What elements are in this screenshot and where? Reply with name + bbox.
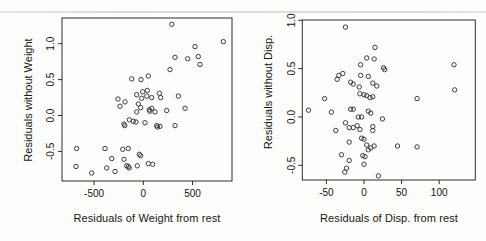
data-point: [221, 39, 225, 43]
data-point: [376, 174, 380, 178]
data-point: [135, 164, 139, 168]
x-tick-label: 0: [141, 188, 147, 199]
data-point: [151, 162, 155, 166]
plot-frame: [302, 20, 475, 180]
data-point: [139, 77, 143, 81]
data-point: [159, 95, 163, 99]
data-point: [415, 145, 419, 149]
data-point: [347, 158, 351, 162]
y-tick-label: 0.0: [286, 110, 297, 124]
data-point: [380, 117, 384, 121]
data-point: [196, 54, 200, 58]
data-point: [123, 100, 127, 104]
data-point: [116, 97, 120, 101]
data-point: [357, 85, 361, 89]
data-point: [329, 110, 333, 114]
y-axis-title-weight: Residuals without Weight: [22, 38, 34, 161]
data-point: [126, 146, 130, 150]
data-point: [306, 108, 310, 112]
data-point: [118, 104, 122, 108]
plot-frame: [62, 18, 232, 181]
plot-canvas-weight: -5000500-0.50.00.51.0: [0, 0, 243, 241]
x-tick-label: -50: [319, 187, 334, 198]
data-point: [150, 95, 154, 99]
data-point: [157, 91, 161, 95]
data-point: [113, 169, 117, 173]
data-point: [452, 63, 456, 67]
y-tick-label: 1.0: [46, 36, 57, 50]
data-point: [134, 120, 138, 124]
data-point: [453, 88, 457, 92]
x-axis-title-disp: Residuals of Disp. from rest: [302, 212, 476, 224]
data-point: [143, 121, 147, 125]
data-point: [168, 67, 172, 71]
data-point: [110, 156, 114, 160]
data-point: [373, 45, 377, 49]
data-point: [343, 121, 347, 125]
x-tick-label: 100: [431, 187, 448, 198]
data-point: [173, 55, 177, 59]
data-point: [74, 164, 78, 168]
data-point: [103, 146, 107, 150]
x-tick-label: -500: [84, 188, 104, 199]
data-point: [90, 171, 94, 175]
data-point: [130, 77, 134, 81]
data-point: [395, 144, 399, 148]
data-point: [75, 146, 79, 150]
y-tick-label: 0.5: [45, 72, 56, 86]
data-point: [358, 127, 362, 131]
x-tick-label: 0: [361, 187, 367, 198]
data-point: [375, 84, 379, 88]
data-point: [359, 73, 363, 77]
data-point: [362, 93, 366, 97]
data-point: [365, 143, 369, 147]
data-point: [141, 90, 145, 94]
data-point: [371, 95, 375, 99]
data-point: [358, 63, 362, 67]
data-point: [145, 88, 149, 92]
data-point: [339, 153, 343, 157]
data-point: [145, 94, 149, 98]
y-tick-label: -0.5: [46, 142, 57, 160]
data-point: [322, 96, 326, 100]
data-point: [366, 74, 370, 78]
x-tick-label: 500: [184, 188, 201, 199]
data-point: [153, 110, 157, 114]
data-point: [372, 57, 376, 61]
x-axis-title-weight: Residuals of Weight from rest: [52, 212, 242, 224]
data-point: [362, 162, 366, 166]
data-point: [415, 96, 419, 100]
data-point: [146, 74, 150, 78]
data-point: [170, 22, 174, 26]
data-point: [146, 161, 150, 165]
data-point: [105, 166, 109, 170]
scatter-panel-weight: -5000500-0.50.00.51.0 Residuals of Weigh…: [0, 0, 243, 241]
data-point: [371, 81, 375, 85]
data-point: [193, 44, 197, 48]
data-point: [186, 57, 190, 61]
data-point: [176, 94, 180, 98]
data-point: [198, 62, 202, 66]
plot-canvas-disp: -50050100-0.50.00.51.0: [243, 0, 486, 241]
data-point: [343, 170, 347, 174]
data-point: [140, 96, 144, 100]
data-point: [365, 56, 369, 60]
y-tick-label: 1.0: [286, 13, 297, 27]
figure-added-variable-plots: -5000500-0.50.00.51.0 Residuals of Weigh…: [0, 0, 486, 241]
y-tick-label: 0.5: [286, 61, 297, 75]
data-point: [347, 140, 351, 144]
data-point: [165, 108, 169, 112]
data-point: [135, 93, 139, 97]
data-point: [334, 128, 338, 132]
data-point: [122, 157, 126, 161]
data-point: [121, 147, 125, 151]
data-point: [337, 73, 341, 77]
data-point: [183, 106, 187, 110]
data-point: [135, 110, 139, 114]
x-tick-label: 50: [396, 187, 408, 198]
scatter-panel-disp: -50050100-0.50.00.51.0 Residuals of Disp…: [243, 0, 486, 241]
y-tick-label: 0.0: [46, 108, 57, 122]
data-point: [343, 25, 347, 29]
data-point: [139, 105, 143, 109]
data-point: [173, 123, 177, 127]
